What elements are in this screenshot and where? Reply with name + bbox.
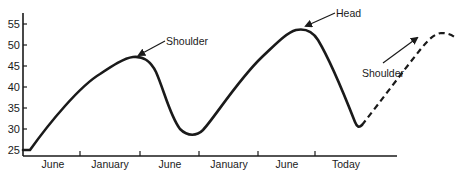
y-tick-label: 40 <box>8 81 20 93</box>
arrow-icon <box>306 13 335 26</box>
x-label: January <box>91 158 129 170</box>
head-and-shoulders-chart: 55 50 45 40 35 30 25 June January June J… <box>0 0 464 176</box>
y-tick-label: 35 <box>8 102 20 114</box>
y-tick-label: 30 <box>8 123 20 135</box>
price-line-actual <box>23 29 362 150</box>
x-tick-labels: June January June January June Today <box>42 158 361 170</box>
x-label: January <box>210 158 248 170</box>
annotation-right-shoulder: Shoulder <box>362 38 417 79</box>
x-label: June <box>42 158 65 170</box>
y-tick-label: 45 <box>8 60 20 72</box>
y-tick-label: 55 <box>8 18 20 30</box>
annotation-label: Head <box>336 7 361 19</box>
x-label: June <box>159 158 182 170</box>
x-label: Today <box>332 158 361 170</box>
annotation-left-shoulder: Shoulder <box>139 35 209 55</box>
x-label: June <box>276 158 299 170</box>
y-tick-label: 25 <box>8 144 20 156</box>
annotation-label: Shoulder <box>362 67 405 79</box>
y-tick-labels: 55 50 45 40 35 30 25 <box>8 18 20 156</box>
arrow-icon <box>139 41 165 55</box>
annotation-label: Shoulder <box>166 35 209 47</box>
annotation-head: Head <box>306 7 361 26</box>
y-tick-label: 50 <box>8 39 20 51</box>
price-line-projected <box>362 33 456 125</box>
